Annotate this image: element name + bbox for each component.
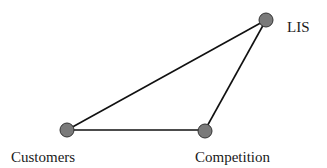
label-customers: Customers	[11, 149, 75, 165]
node-lis	[259, 13, 273, 27]
label-lis: LIS	[287, 19, 310, 35]
label-competition: Competition	[195, 149, 271, 165]
node-competition	[198, 124, 212, 138]
network-diagram: LIS Customers Competition	[0, 0, 327, 168]
node-customers	[60, 123, 74, 137]
